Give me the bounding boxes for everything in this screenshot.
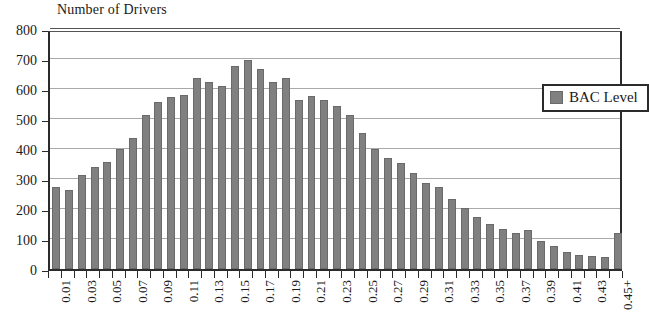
x-axis-tick-mark (252, 271, 253, 278)
x-axis-tick-label: 0.07 (136, 280, 149, 303)
y-axis: 0100200300400500600700800 (0, 31, 40, 271)
x-axis-tick-mark (278, 271, 279, 278)
y-axis-tick-label: 400 (16, 144, 37, 158)
bar (461, 208, 469, 270)
x-axis-tick-label: 0.33 (468, 280, 481, 303)
x-axis-tick-label: 0.37 (519, 280, 532, 303)
bar (218, 86, 226, 269)
x-axis-tick-mark (163, 271, 164, 278)
x-axis-tick-mark (48, 271, 49, 278)
x-axis-tick-label: 0.25 (366, 280, 379, 303)
bar (486, 224, 494, 269)
x-axis-tick-label: 0.15 (238, 280, 251, 303)
bar (193, 78, 201, 269)
bar (512, 233, 520, 269)
x-axis-tick-label: 0.13 (212, 280, 225, 303)
x-axis-tick-label: 0.23 (340, 280, 353, 303)
x-axis-tick-label: 0.17 (263, 280, 276, 303)
x-axis-tick-mark (494, 271, 495, 278)
bar (231, 66, 239, 269)
y-axis-tick-label: 600 (16, 84, 37, 98)
x-axis-tick-mark (367, 271, 368, 278)
x-axis-tick-mark (201, 271, 202, 278)
x-axis-tick-mark (520, 271, 521, 278)
bar (563, 252, 571, 269)
x-axis-tick-label: 0.39 (544, 280, 557, 303)
bar (333, 106, 341, 270)
x-axis-tick-label: 0.35 (493, 280, 506, 303)
x-axis-tick-mark (61, 271, 62, 278)
legend-swatch-icon (550, 91, 563, 104)
gridline (50, 28, 620, 29)
x-axis-tick-mark (584, 271, 585, 278)
bar (346, 115, 354, 269)
bar (575, 255, 583, 269)
bar (524, 230, 532, 269)
bar (588, 256, 596, 270)
x-axis-tick-mark (239, 271, 240, 278)
x-axis-tick-label: 0.03 (85, 280, 98, 303)
x-axis-tick-mark (571, 271, 572, 278)
bar (244, 60, 252, 269)
y-axis-tick-label: 500 (16, 114, 37, 128)
bar (550, 246, 558, 269)
x-axis-tick-label: 0.05 (110, 280, 123, 303)
x-axis-tick-mark (214, 271, 215, 278)
x-axis-tick-mark (316, 271, 317, 278)
plot-area: BAC Level (48, 31, 622, 271)
bar (91, 167, 99, 269)
y-axis-tick-label: 200 (16, 204, 37, 218)
x-axis-tick-mark (86, 271, 87, 278)
x-axis-tick-mark (507, 271, 508, 278)
bar (78, 175, 86, 269)
x-axis-tick-mark (176, 271, 177, 278)
y-axis-tick-label: 0 (30, 264, 37, 278)
x-axis-tick-mark (469, 271, 470, 278)
bar (103, 162, 111, 269)
x-axis-tick-mark (596, 271, 597, 278)
x-axis-tick-mark (622, 271, 623, 278)
x-axis-labels: 0.010.030.050.070.090.110.130.150.170.19… (48, 280, 622, 332)
x-axis-tick-mark (456, 271, 457, 278)
bar (320, 100, 328, 270)
x-axis-tick-mark (558, 271, 559, 278)
bar (295, 100, 303, 269)
y-axis-tick-label: 700 (16, 54, 37, 68)
x-axis-tick-label: 0.01 (59, 280, 72, 303)
bar (116, 149, 124, 269)
x-axis-tick-mark (290, 271, 291, 278)
x-axis-tick-mark (341, 271, 342, 278)
bar (65, 190, 73, 269)
bar (499, 229, 507, 270)
x-axis-tick-mark (188, 271, 189, 278)
x-axis-tick-mark (137, 271, 138, 278)
x-axis-tick-mark (112, 271, 113, 278)
legend[interactable]: BAC Level (542, 84, 649, 112)
x-axis-tick-mark (418, 271, 419, 278)
bar (269, 82, 277, 269)
x-axis-tick-mark (380, 271, 381, 278)
bar (473, 217, 481, 269)
x-axis-tick-mark (303, 271, 304, 278)
legend-label: BAC Level (569, 89, 638, 106)
bar (52, 187, 60, 270)
bar (435, 187, 443, 269)
x-axis-tick-mark (227, 271, 228, 278)
bar (205, 82, 213, 269)
bar (410, 173, 418, 269)
x-axis-tick-mark (329, 271, 330, 278)
x-axis-tick-label: 0.29 (417, 280, 430, 303)
bar (359, 133, 367, 270)
y-axis-tick-label: 100 (16, 234, 37, 248)
bar (129, 138, 137, 269)
x-axis-tick-mark (74, 271, 75, 278)
x-axis-tick-label: 0.27 (391, 280, 404, 303)
bar (308, 96, 316, 269)
x-axis-tick-mark (405, 271, 406, 278)
x-axis-tick-mark (533, 271, 534, 278)
x-axis-tick-label: 0.45+ (621, 280, 634, 310)
bar (180, 95, 188, 269)
x-axis-tick-mark (609, 271, 610, 278)
x-axis-tick-label: 0.31 (442, 280, 455, 303)
